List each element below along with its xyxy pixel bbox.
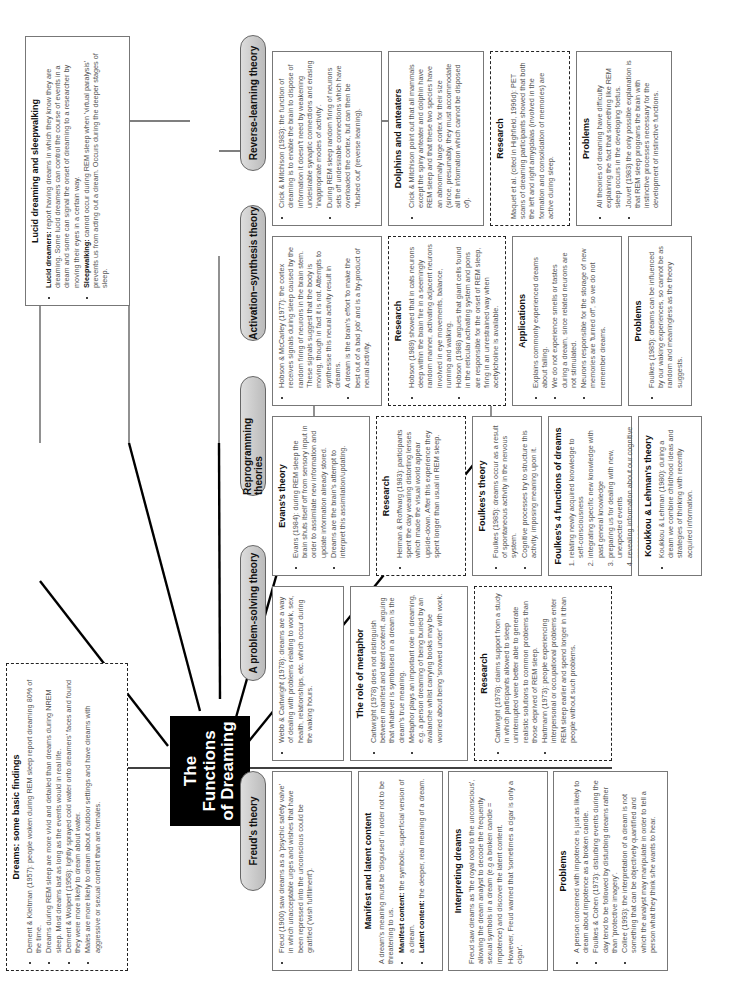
list-item: Foulkes & Cohen (1973): disturbing event… bbox=[591, 778, 619, 953]
research-title: Research bbox=[495, 58, 507, 219]
activation-main-box: Hobson & McCarley (1977): the cortex rec… bbox=[272, 236, 382, 406]
evans-theory-box: Evans's theory Evans (1984): during REM … bbox=[272, 416, 370, 576]
list-item: Metaphor plays an important role in drea… bbox=[407, 593, 444, 743]
koukkou-title: Koukkou & Lehman's theory bbox=[643, 423, 655, 569]
list-item: Cartwright (1978): claims support from a… bbox=[493, 593, 540, 743]
manifest-intro: A dream's meaning must be 'disguised' in… bbox=[377, 778, 396, 964]
basic-findings-box: Dreams: some basic findings Dement & Kle… bbox=[6, 663, 128, 971]
branch-reprogramming: Reprogramming theories bbox=[240, 376, 266, 496]
list-item: Webb & Cartwright (1978): dreams are a w… bbox=[277, 593, 314, 743]
list-item: Dreams are the brain's attempt to interp… bbox=[329, 423, 348, 558]
central-title-line1: The Functions bbox=[181, 730, 219, 811]
research-text: Maquet et al. (cited in Highfield, 1996d… bbox=[509, 58, 556, 219]
evans-title: Evans's theory bbox=[277, 423, 289, 569]
list-item: Latent content: the deeper, real meaning… bbox=[417, 778, 426, 953]
foulkes-four-functions-box: Foulkes's 4 functions of dreams relating… bbox=[548, 416, 632, 576]
list-item: Dement & Kleitman (1957): people woken d… bbox=[25, 670, 44, 953]
central-title: The Functionsof Dreaming bbox=[170, 716, 250, 826]
list-item: Sleepwalking: cannot occur during REM sl… bbox=[82, 43, 110, 288]
branch-activation-synthesis: Activation–synthesis theory bbox=[240, 205, 266, 341]
list-item: Collee (1993): the interpretation of a d… bbox=[620, 778, 657, 953]
problem-solving-main-box: Webb & Cartwright (1978): dreams are a w… bbox=[272, 586, 344, 761]
list-item: Evans (1984): during REM sleep the brain… bbox=[291, 423, 328, 558]
list-item: Males are more likely to dream about out… bbox=[83, 670, 102, 953]
list-item: Jouvet (1983) the only possible explanat… bbox=[624, 58, 661, 208]
research-title: Research bbox=[479, 593, 491, 754]
list-item: Cartwright (1978) does not distinguish b… bbox=[369, 593, 406, 743]
list-item: Dreams during REM sleep are more vivid a… bbox=[44, 670, 63, 953]
problem-solving-research-box: Research Cartwright (1978): claims suppo… bbox=[474, 586, 612, 761]
branch-problem-solving: A problem-solving theory bbox=[240, 545, 266, 681]
list-item: relating newly acquired knowledge to sel… bbox=[567, 423, 586, 558]
list-item: Lucid dreamers: report having dreams in … bbox=[44, 43, 81, 288]
list-item: Hobson (1988) argues that giant cells fo… bbox=[454, 243, 501, 388]
list-item: A person concerned with impotence is jus… bbox=[572, 778, 591, 953]
metaphor-title: The role of metaphor bbox=[355, 593, 367, 754]
activation-problems-box: Problems Foulkes (1985): dreams can be i… bbox=[628, 236, 692, 406]
interpreting-dreams-box: Interpreting dreams Freud saw dreams as … bbox=[448, 771, 548, 971]
list-item: Foulkes (1985): dreams can be influenced… bbox=[647, 243, 684, 388]
activation-research-box: Research Hobson (1989) showed that in ca… bbox=[388, 236, 506, 406]
metaphor-box: The role of metaphor Cartwright (1978) d… bbox=[350, 586, 468, 761]
problems-title: Problems bbox=[633, 243, 645, 399]
dolphins-title: Dolphins and anteaters bbox=[393, 58, 405, 219]
four-functions-title: Foulkes's 4 functions of dreams bbox=[553, 423, 565, 569]
interpreting-text: However, Freud warned that 'sometimes a … bbox=[506, 778, 525, 964]
branch-freud-theory: Freud's theory bbox=[240, 771, 266, 891]
list-item: Neurons responsible for the storage of n… bbox=[579, 243, 607, 388]
mind-map-canvas: The Functionsof Dreaming Dreams: some ba… bbox=[0, 0, 737, 981]
freud-main-box: Freud (1900) saw dreams as a 'psychic sa… bbox=[272, 771, 352, 971]
interpreting-title: Interpreting dreams bbox=[453, 778, 465, 964]
branch-reverse-learning: Reverse-learning theory bbox=[240, 35, 266, 171]
foulkes-theory-box: Foulkes's theory Foulkes (1985): dreams … bbox=[472, 416, 542, 576]
list-item: Freud (1900) saw dreams as a 'psychic sa… bbox=[277, 778, 314, 953]
list-item: integrating specific new knowledge with … bbox=[586, 423, 605, 558]
reverse-problems-box: Problems All theories of dreaming have d… bbox=[576, 51, 672, 226]
research-title: Research bbox=[381, 423, 393, 569]
list-item: Crick & Mitchison point out that all mam… bbox=[407, 58, 472, 208]
list-item: A dream is the brain's effort 'to make t… bbox=[343, 243, 371, 388]
lucid-title: Lucid dreaming and sleepwalking bbox=[30, 43, 42, 299]
foulkes-title: Foulkes's theory bbox=[477, 423, 489, 569]
list-item: Dement & Wolpert (1958): lightly sprayed… bbox=[64, 670, 83, 953]
list-item: Hobson & McCarley (1977): the cortex rec… bbox=[277, 243, 342, 388]
problems-title: Problems bbox=[558, 778, 570, 964]
list-item: Cognitive processes try to structure thi… bbox=[520, 423, 539, 558]
list-item: All theories of dreaming have difficulty… bbox=[595, 58, 623, 208]
reverse-main-box: Crick & Mitchison (1983): the function o… bbox=[272, 51, 382, 226]
interpreting-text: Freud saw dreams as 'the royal road to t… bbox=[467, 778, 504, 964]
list-item: Hartmann (1973): people experiencing int… bbox=[540, 593, 577, 743]
central-title-line2: of Dreaming bbox=[218, 721, 237, 820]
reprogramming-research-box: Research Herman & Roffwarg (1983): parti… bbox=[376, 416, 466, 576]
list-item: Foulkes (1985): dreams occur as a result… bbox=[491, 423, 519, 558]
manifest-latent-box: Manifest and latent content A dream's me… bbox=[358, 771, 443, 971]
applications-box: Applications Explains commonly experienc… bbox=[512, 236, 622, 406]
freud-problems-box: Problems A person concerned with impoten… bbox=[553, 771, 668, 971]
lucid-dreaming-box: Lucid dreaming and sleepwalking Lucid dr… bbox=[25, 36, 130, 306]
list-item: During REM sleep random firing of neuron… bbox=[325, 58, 362, 208]
list-item: Explains commonly experienced dreams abo… bbox=[531, 243, 550, 388]
list-item: Koukkou & Lehman (1980): during a dream … bbox=[657, 423, 694, 558]
manifest-title: Manifest and latent content bbox=[363, 778, 375, 964]
applications-title: Applications bbox=[517, 243, 529, 399]
list-item: We do not experience smells or tastes du… bbox=[550, 243, 578, 388]
list-item: preparing us for dealing with new, unexp… bbox=[606, 423, 625, 558]
dolphins-anteaters-box: Dolphins and anteaters Crick & Mitchison… bbox=[388, 51, 484, 226]
problems-title: Problems bbox=[581, 58, 593, 219]
reverse-research-box: Research Maquet et al. (cited in Highfie… bbox=[490, 51, 570, 226]
list-item: Manifest content: the symbolic, superfic… bbox=[397, 778, 416, 953]
koukkou-lehman-box: Koukkou & Lehman's theory Koukkou & Lehm… bbox=[638, 416, 702, 576]
list-item: Crick & Mitchison (1983): the function o… bbox=[277, 58, 324, 208]
list-item: Herman & Roffwarg (1983): participants s… bbox=[395, 423, 442, 558]
research-title: Research bbox=[393, 243, 405, 399]
basic-findings-title: Dreams: some basic findings bbox=[11, 670, 23, 964]
list-item: Hobson (1989) showed that in cats neuron… bbox=[407, 243, 454, 388]
